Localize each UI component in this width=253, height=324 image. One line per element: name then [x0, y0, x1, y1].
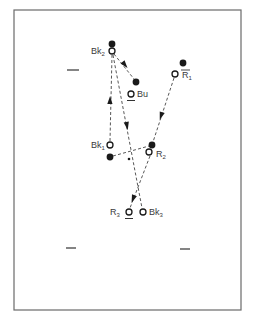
points: Bk2BuR1Bk1R2R3Bk3: [91, 41, 193, 219]
point-label: R1: [182, 70, 193, 81]
arrow-r2-to-r3: [130, 156, 150, 208]
open-circle-icon: [146, 149, 152, 155]
arrow-bk1-filled-to-r2-filled: [113, 146, 149, 156]
point-label: Bk3: [149, 207, 164, 218]
dashed-line: [113, 146, 149, 156]
arrowhead-icon: [132, 194, 137, 202]
center-dot-icon: [128, 158, 131, 161]
point-label: R3: [110, 207, 121, 218]
point-label: R2: [156, 149, 167, 160]
dashed-line: [114, 54, 134, 79]
point-bk1: Bk1: [91, 140, 113, 160]
point-label: Bk2: [91, 46, 106, 57]
open-circle-icon: [126, 209, 132, 215]
arrow-bk2-to-bk3: [113, 55, 142, 208]
arrowhead-icon: [107, 96, 112, 104]
open-circle-icon: [140, 209, 146, 215]
open-circle-icon: [172, 71, 178, 77]
point-r2: R2: [146, 142, 167, 160]
filled-dot-icon: [180, 60, 187, 67]
open-circle-icon: [109, 48, 115, 54]
diagram-canvas: Bk2BuR1Bk1R2R3Bk3: [0, 0, 253, 324]
point-r3: R3: [110, 207, 133, 219]
filled-dot-icon: [133, 79, 140, 86]
point-bk2: Bk2: [91, 41, 115, 57]
dashed-line: [153, 78, 174, 142]
dashed-line: [113, 55, 142, 208]
filled-dot-icon: [107, 154, 114, 161]
arrow-r1-to-r2: [153, 78, 174, 142]
point-bu: Bu: [127, 79, 148, 101]
arrow-bk1-to-bk2: [107, 55, 112, 141]
point-label: Bk1: [91, 140, 106, 151]
diagram-frame: [14, 10, 241, 310]
arrowhead-icon: [124, 122, 129, 130]
point-r1: R1: [172, 60, 193, 81]
point-label: Bu: [137, 89, 148, 99]
filled-dot-icon: [109, 41, 116, 48]
point-bk3: Bk3: [140, 207, 164, 218]
arrow-bk2-to-bu: [114, 54, 134, 79]
filled-dot-icon: [149, 142, 156, 149]
open-circle-icon: [107, 142, 113, 148]
arrowhead-icon: [160, 111, 165, 119]
arrow-paths: [107, 54, 174, 208]
open-circle-icon: [128, 91, 134, 97]
